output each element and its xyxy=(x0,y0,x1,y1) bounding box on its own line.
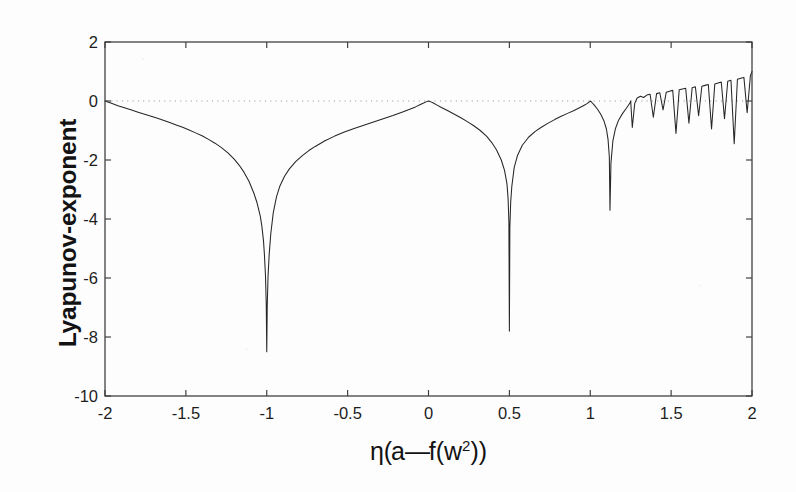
y-axis-label: Lyapunov-exponent xyxy=(54,83,82,383)
figure-container: -2-1.5-1-0.500.511.52 20-2-4-6-8-10 Lyap… xyxy=(0,0,796,492)
x-tick-label: 2 xyxy=(747,404,756,423)
x-tick-label: -1.5 xyxy=(172,404,200,423)
axis-frame xyxy=(105,42,752,396)
lyapunov-exponent-curve xyxy=(105,72,752,352)
y-tick-label: 2 xyxy=(50,33,98,52)
xlabel-f: f xyxy=(429,437,436,465)
x-axis-label: η(a—f(w2)) xyxy=(105,437,752,466)
x-tick-label: -0.5 xyxy=(333,404,361,423)
xlabel-minus: — xyxy=(405,437,429,465)
x-tick-label: 0 xyxy=(424,404,433,423)
data-curve-group xyxy=(105,72,752,352)
x-tick-label: -2 xyxy=(98,404,113,423)
xlabel-w: w xyxy=(444,437,462,465)
axis-ticks-group xyxy=(105,42,752,396)
xlabel-eta: η xyxy=(370,437,384,465)
xlabel-close-parens: )) xyxy=(470,437,487,465)
xlabel-open-paren-2: ( xyxy=(436,437,444,465)
xlabel-open-paren: ( xyxy=(384,437,391,465)
x-tick-label: -1 xyxy=(259,404,274,423)
x-tick-label: 1 xyxy=(586,404,595,423)
xlabel-a: a xyxy=(391,437,405,465)
y-tick-label: -10 xyxy=(50,387,98,406)
x-tick-label: 0.5 xyxy=(498,404,521,423)
x-tick-label: 1.5 xyxy=(660,404,683,423)
